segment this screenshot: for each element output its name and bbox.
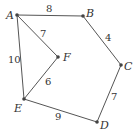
label-d: D: [99, 119, 109, 131]
node-d: [95, 120, 99, 124]
weight-a-b: 8: [46, 3, 52, 14]
label-b: B: [85, 7, 94, 20]
label-c: C: [124, 60, 133, 73]
edge-b-c: [83, 16, 121, 65]
weight-e-a: 10: [8, 54, 21, 65]
node-f: [56, 55, 60, 59]
weight-f-e: 6: [45, 76, 51, 87]
weight-c-d: 7: [111, 91, 117, 102]
label-a: A: [5, 9, 14, 22]
weight-a-f: 7: [40, 28, 46, 39]
node-b: [81, 14, 85, 18]
edge-a-b: [17, 15, 83, 16]
weight-b-c: 4: [105, 32, 111, 43]
node-c: [119, 63, 123, 67]
node-a: [15, 13, 19, 17]
edge-a-f: [17, 15, 58, 57]
weight-d-e: 9: [55, 111, 61, 122]
label-f: F: [62, 51, 71, 64]
node-e: [22, 97, 26, 101]
weighted-graph: A B C D E F 8 4 7 9 10 7 6: [0, 0, 138, 131]
edge-c-d: [97, 65, 121, 122]
edge-f-e: [24, 57, 58, 99]
label-e: E: [13, 102, 22, 115]
